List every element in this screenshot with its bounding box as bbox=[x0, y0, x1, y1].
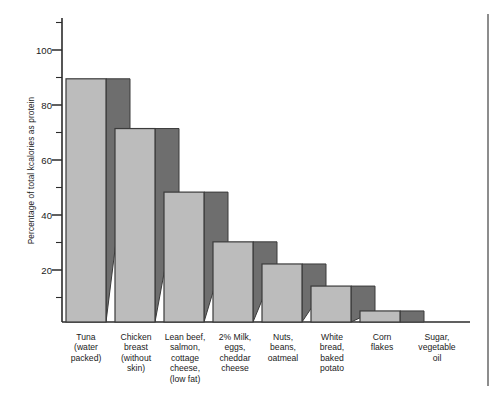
x-label-line: flakes bbox=[355, 342, 409, 352]
x-label-line: (low fat) bbox=[150, 374, 220, 384]
x-category-label-corn-flakes: Corn flakes bbox=[355, 332, 409, 353]
y-major-ticks bbox=[52, 50, 62, 270]
bar-face-corn-flakes bbox=[360, 311, 400, 322]
bar-face-milk-eggs-cheddar bbox=[213, 242, 253, 322]
x-category-label-sugar-vegetable-oil: Sugar, vegetable oil bbox=[404, 332, 470, 363]
bar-face-white-bread bbox=[311, 286, 351, 322]
x-label-line: baked bbox=[303, 353, 361, 363]
x-label-line: vegetable bbox=[404, 342, 470, 352]
x-label-line: cheese bbox=[203, 363, 267, 373]
bar-face-nuts-beans-oatmeal bbox=[262, 264, 302, 322]
x-label-line: bread, bbox=[303, 342, 361, 352]
chart-figure: Percentage of total kcalories as protein… bbox=[0, 0, 493, 400]
bar-face-lean-beef bbox=[164, 192, 204, 322]
x-label-line: White bbox=[303, 332, 361, 342]
bar-face-tuna bbox=[66, 79, 106, 322]
bar-group-corn-flakes bbox=[360, 311, 424, 322]
x-category-label-white-bread: White bread, baked potato bbox=[303, 332, 361, 374]
x-label-line: Sugar, bbox=[404, 332, 470, 342]
bar-face-chicken-breast bbox=[115, 129, 155, 322]
x-label-line: potato bbox=[303, 363, 361, 373]
x-label-line: Corn bbox=[355, 332, 409, 342]
x-label-line: oil bbox=[404, 353, 470, 363]
bar-side-corn-flakes bbox=[400, 311, 424, 322]
